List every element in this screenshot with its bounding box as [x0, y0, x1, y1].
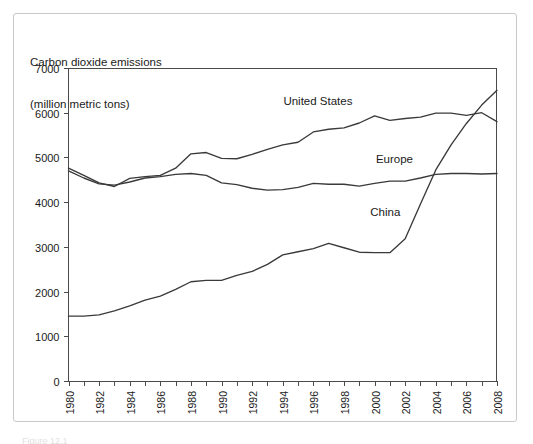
x-axis: 1980198219841986198819901992199419961998…: [64, 381, 504, 414]
y-tick-label: 2000: [35, 287, 59, 299]
x-tick-group: 1980198219841986198819901992199419961998…: [64, 381, 504, 414]
series-label-europe: Europe: [376, 153, 413, 165]
series-line-europe: [69, 171, 498, 190]
x-tick-label: 1990: [217, 391, 229, 415]
y-tick-label: 4000: [35, 197, 59, 209]
x-tick-label: 1986: [155, 391, 167, 415]
x-tick-label: 1998: [339, 391, 351, 415]
y-tick-label: 7000: [35, 63, 59, 75]
series-label-china: China: [370, 206, 401, 218]
x-tick-label: 1984: [125, 391, 137, 415]
x-tick-label: 2000: [370, 391, 382, 415]
y-tick-label: 0: [53, 376, 59, 388]
series-label-group: United StatesEuropeChina: [283, 95, 413, 219]
x-tick-label: 2006: [461, 391, 473, 415]
y-tick-label: 6000: [35, 108, 59, 120]
x-tick-label: 1988: [186, 391, 198, 415]
y-tick-label: 3000: [35, 242, 59, 254]
x-tick-label: 1992: [247, 391, 259, 415]
y-tick-group: 01000200030004000500060007000: [35, 63, 68, 388]
x-tick-label: 2002: [400, 391, 412, 415]
series-label-united-states: United States: [283, 95, 352, 107]
figure-root: Carbon dioxide emissions (million metric…: [0, 0, 533, 444]
y-tick-label: 1000: [35, 331, 59, 343]
x-tick-label: 1996: [308, 391, 320, 415]
x-tick-label: 1980: [64, 391, 76, 415]
x-tick-label: 2004: [431, 391, 443, 415]
y-axis: 01000200030004000500060007000: [35, 63, 68, 388]
x-tick-label: 1982: [94, 391, 106, 415]
series-group: [69, 90, 498, 316]
figure-caption: Figure 12.1: [22, 436, 68, 444]
x-tick-label: 2008: [492, 391, 504, 415]
series-line-china: [69, 90, 498, 316]
line-chart: 01000200030004000500060007000 1980198219…: [0, 0, 533, 444]
x-tick-label: 1994: [278, 391, 290, 415]
y-tick-label: 5000: [35, 152, 59, 164]
